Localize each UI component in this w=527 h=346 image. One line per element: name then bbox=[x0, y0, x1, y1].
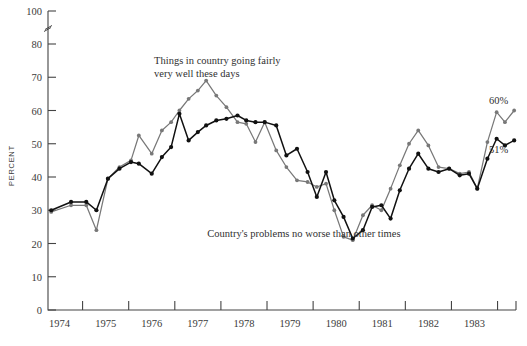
data-point bbox=[84, 200, 88, 204]
data-point bbox=[416, 152, 420, 156]
data-point bbox=[137, 162, 141, 166]
series-line bbox=[51, 81, 514, 241]
data-point bbox=[214, 94, 218, 98]
data-point bbox=[426, 167, 430, 171]
data-point bbox=[416, 129, 420, 133]
data-point bbox=[160, 155, 164, 159]
data-point bbox=[389, 187, 393, 191]
data-point bbox=[137, 134, 141, 138]
data-point bbox=[370, 205, 374, 209]
data-point bbox=[503, 120, 507, 124]
data-point bbox=[69, 200, 73, 204]
x-tick-label: 1981 bbox=[372, 318, 393, 329]
data-point bbox=[315, 195, 319, 199]
data-point bbox=[254, 140, 258, 144]
data-point bbox=[315, 185, 319, 189]
y-tick-label: 100 bbox=[26, 6, 42, 17]
x-tick-label: 1974 bbox=[49, 318, 71, 329]
y-tick-label: 40 bbox=[32, 172, 43, 183]
gray-series-annotation: Things in country going fairlyvery well … bbox=[154, 55, 281, 79]
data-point bbox=[475, 187, 479, 191]
data-point bbox=[332, 198, 336, 202]
data-point bbox=[150, 172, 154, 176]
x-tick-label: 1982 bbox=[418, 318, 439, 329]
data-point bbox=[224, 117, 228, 121]
data-point bbox=[305, 170, 309, 174]
data-point bbox=[295, 147, 299, 151]
line-chart: 01020304050607080100 1974197519761977197… bbox=[0, 0, 527, 346]
data-point bbox=[225, 105, 229, 109]
y-tick-label: 50 bbox=[32, 139, 43, 150]
data-point bbox=[95, 228, 99, 232]
data-point bbox=[187, 138, 191, 142]
x-tick-label: 1980 bbox=[326, 318, 347, 329]
data-point bbox=[169, 145, 173, 149]
data-point bbox=[236, 120, 240, 124]
data-point bbox=[49, 208, 53, 212]
data-point bbox=[244, 118, 248, 122]
data-point bbox=[388, 216, 392, 220]
data-point bbox=[332, 208, 336, 212]
data-point bbox=[324, 182, 328, 186]
data-point bbox=[512, 109, 516, 113]
data-point bbox=[467, 172, 471, 176]
data-point bbox=[235, 113, 239, 117]
data-series bbox=[49, 79, 516, 242]
data-point bbox=[324, 170, 328, 174]
data-point bbox=[204, 123, 208, 127]
data-point bbox=[486, 140, 490, 144]
data-point bbox=[129, 160, 133, 164]
data-point bbox=[398, 188, 402, 192]
y-tick-label: 60 bbox=[32, 106, 43, 117]
data-point bbox=[458, 173, 462, 177]
x-tick-label: 1983 bbox=[464, 318, 485, 329]
x-tick-label: 1977 bbox=[187, 318, 208, 329]
data-point bbox=[214, 118, 218, 122]
black-series-annotation: Country's problems no worse than other t… bbox=[207, 228, 400, 239]
y-tick-label: 10 bbox=[32, 272, 43, 283]
chart-container: 01020304050607080100 1974197519761977197… bbox=[0, 0, 527, 346]
data-point bbox=[341, 215, 345, 219]
data-point bbox=[379, 203, 383, 207]
series-gray bbox=[49, 79, 516, 242]
data-point bbox=[407, 167, 411, 171]
data-point bbox=[263, 120, 267, 124]
y-tick-labels: 01020304050607080100 bbox=[26, 6, 42, 316]
data-point bbox=[150, 152, 154, 156]
black-end-label: 51% bbox=[489, 144, 509, 155]
data-point bbox=[117, 167, 121, 171]
data-point bbox=[284, 153, 288, 157]
data-point bbox=[196, 89, 200, 93]
y-tick-label: 80 bbox=[32, 39, 43, 50]
gray-end-label: 60% bbox=[489, 95, 509, 106]
data-point bbox=[437, 165, 441, 169]
data-point bbox=[447, 167, 451, 171]
y-tick-label: 0 bbox=[37, 305, 42, 316]
x-tick-label: 1976 bbox=[141, 318, 162, 329]
y-tick-label: 30 bbox=[32, 205, 43, 216]
y-tick-label: 70 bbox=[32, 72, 43, 83]
x-tick-label: 1978 bbox=[233, 318, 254, 329]
data-point bbox=[398, 163, 402, 167]
data-point bbox=[295, 178, 299, 182]
data-point bbox=[253, 120, 257, 124]
series-line bbox=[51, 114, 514, 239]
data-point bbox=[495, 110, 499, 114]
x-tick-labels: 1974197519761977197819791980198119821983 bbox=[49, 318, 485, 329]
data-point bbox=[204, 79, 208, 83]
data-point bbox=[284, 165, 288, 169]
y-tick-label: 20 bbox=[32, 239, 43, 250]
data-point bbox=[160, 129, 164, 133]
data-point bbox=[274, 123, 278, 127]
data-point bbox=[187, 97, 191, 101]
data-point bbox=[512, 138, 516, 142]
data-point bbox=[407, 142, 411, 146]
y-axis-title: PERCENT bbox=[7, 145, 16, 186]
data-point bbox=[495, 137, 499, 141]
x-tick-label: 1975 bbox=[95, 318, 116, 329]
data-point bbox=[426, 144, 430, 148]
data-point bbox=[306, 180, 310, 184]
data-point bbox=[436, 170, 440, 174]
data-point bbox=[274, 149, 278, 153]
data-point bbox=[379, 208, 383, 212]
